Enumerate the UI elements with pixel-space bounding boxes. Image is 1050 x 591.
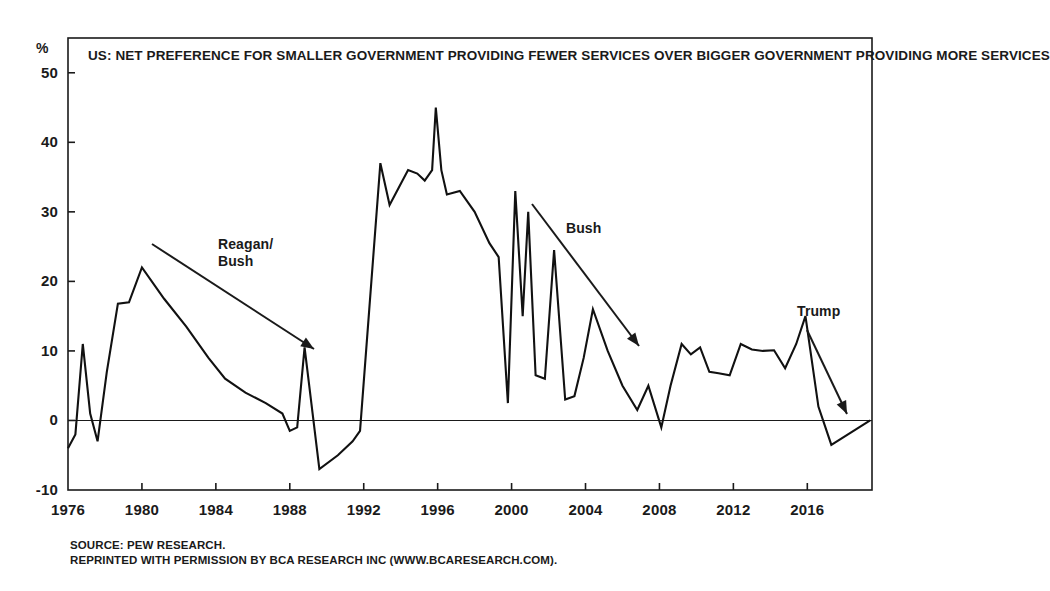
x-axis-tick-label: 1976 [51, 501, 85, 518]
x-axis-tick-label: 2008 [642, 501, 676, 518]
x-axis-tick-label: 2016 [790, 501, 824, 518]
chart-title: US: NET PREFERENCE FOR SMALLER GOVERNMEN… [88, 47, 1050, 65]
annotation-label: Bush [566, 220, 601, 237]
y-axis-unit-label: % [36, 40, 49, 56]
x-axis-tick-label: 1992 [347, 501, 381, 518]
data-series-layer [68, 108, 870, 470]
source-footnote: SOURCE: PEW RESEARCH. REPRINTED WITH PER… [70, 538, 557, 568]
x-axis-tick-label: 1980 [125, 501, 159, 518]
y-axis-tick-label: 20 [12, 272, 58, 289]
x-axis-tick-label: 2012 [716, 501, 750, 518]
x-axis-tick-label: 1984 [199, 501, 233, 518]
y-axis-tick-label: 0 [12, 411, 58, 428]
y-axis-tick-label: 10 [12, 342, 58, 359]
annotation-label: Reagan/ Bush [218, 236, 273, 270]
x-axis-tick-label: 2000 [494, 501, 528, 518]
plot-frame [68, 38, 872, 490]
x-axis-tick-label: 2004 [568, 501, 602, 518]
y-axis-tick-label: 30 [12, 203, 58, 220]
x-axis-tick-label: 1996 [421, 501, 455, 518]
x-axis-tick-label: 1988 [273, 501, 307, 518]
y-axis-tick-label: 40 [12, 133, 58, 150]
annotation-label: Trump [797, 303, 840, 320]
y-axis-tick-label: 50 [12, 64, 58, 81]
y-axis-tick-label: -10 [12, 481, 58, 498]
